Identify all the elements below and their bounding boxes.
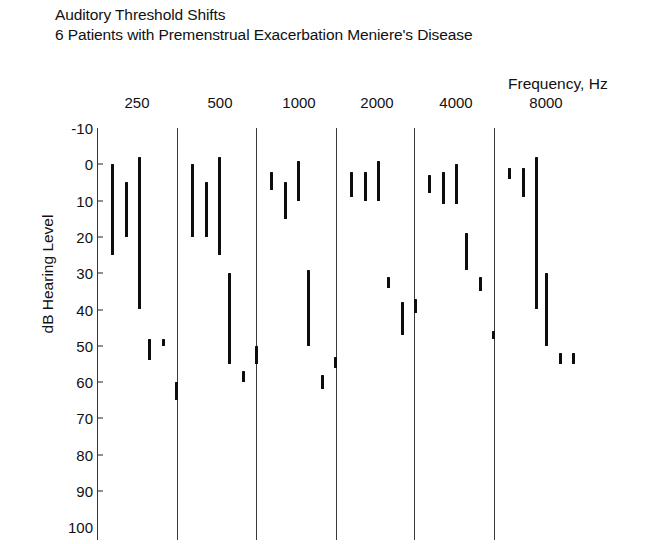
bar-1000hz-patient-4 (307, 270, 310, 346)
bar-250hz-patient-1 (111, 164, 114, 255)
y-tick-label: 30 (55, 265, 93, 282)
bar-500hz-patient-2 (205, 182, 208, 236)
x-group-label-8000: 8000 (529, 94, 562, 111)
bar-4000hz-patient-1 (428, 175, 431, 193)
bar-8000hz-patient-6 (572, 353, 575, 364)
y-tick-label: 100 (55, 519, 93, 536)
bar-250hz-patient-3 (138, 157, 141, 309)
bar-2000hz-patient-5 (401, 302, 404, 335)
bar-250hz-patient-6 (175, 382, 178, 400)
bar-2000hz-patient-6 (414, 299, 417, 314)
bar-2000hz-patient-4 (387, 277, 390, 288)
y-tick-label: 20 (55, 228, 93, 245)
y-tick-label: 80 (55, 446, 93, 463)
y-tick-label: 50 (55, 337, 93, 354)
chart-page: Auditory Threshold Shifts 6 Patients wit… (0, 0, 661, 544)
group-separator (336, 128, 337, 540)
bar-4000hz-patient-3 (455, 164, 458, 204)
bar-500hz-patient-6 (255, 346, 258, 364)
y-tick-label: 60 (55, 374, 93, 391)
bar-1000hz-patient-1 (270, 172, 273, 190)
bar-250hz-patient-2 (125, 182, 128, 236)
group-separator (256, 128, 257, 540)
y-tick-label: 90 (55, 483, 93, 500)
x-group-label-1000: 1000 (282, 94, 315, 111)
bar-4000hz-patient-4 (465, 233, 468, 269)
x-group-label-2000: 2000 (360, 94, 393, 111)
bar-500hz-patient-5 (242, 371, 245, 382)
bar-500hz-patient-4 (228, 273, 231, 364)
bar-1000hz-patient-2 (284, 182, 287, 218)
bar-1000hz-patient-3 (297, 161, 300, 201)
x-group-label-500: 500 (207, 94, 232, 111)
bar-1000hz-patient-5 (321, 375, 324, 390)
bar-4000hz-patient-2 (442, 172, 445, 205)
group-separator (177, 128, 178, 540)
x-group-label-4000: 4000 (439, 94, 472, 111)
y-tick-label: -10 (55, 120, 93, 137)
y-tick-label: 0 (55, 156, 93, 173)
bar-4000hz-patient-5 (479, 277, 482, 292)
group-separator (414, 128, 415, 540)
bar-500hz-patient-1 (191, 164, 194, 237)
bar-8000hz-patient-1 (508, 168, 511, 179)
y-tick-label: 70 (55, 410, 93, 427)
bar-8000hz-patient-3 (535, 157, 538, 309)
bar-1000hz-patient-6 (334, 357, 337, 368)
bar-2000hz-patient-3 (377, 161, 380, 201)
bar-2000hz-patient-2 (364, 172, 367, 201)
bar-8000hz-patient-4 (545, 273, 548, 346)
bar-250hz-patient-5 (162, 339, 165, 346)
bar-4000hz-patient-6 (492, 331, 495, 338)
bar-250hz-patient-4 (148, 339, 151, 361)
bar-2000hz-patient-1 (350, 172, 353, 197)
bar-8000hz-patient-5 (559, 353, 562, 364)
plot-area: -100102030405060708090100250500100020004… (0, 0, 661, 544)
bar-8000hz-patient-2 (522, 168, 525, 197)
y-axis-line (97, 128, 98, 540)
y-tick-label: 40 (55, 301, 93, 318)
x-group-label-250: 250 (124, 94, 149, 111)
y-tick-label: 10 (55, 192, 93, 209)
bar-500hz-patient-3 (218, 157, 221, 255)
